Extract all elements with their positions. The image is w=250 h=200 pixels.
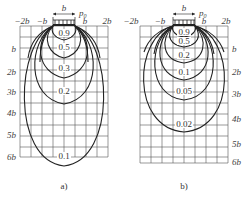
y-tick-label: 3b (6, 87, 17, 97)
y-tick-label: 5b (232, 139, 242, 149)
x-tick-label: −b (37, 16, 48, 26)
panel-b: 0.9 0.5 0.2 0.1 0.05 0.02 −2b −b b 2b b … (123, 3, 241, 191)
x-tick-label: −2b (14, 16, 30, 26)
y-tick-label: 6b (232, 157, 242, 167)
y-tick-label: 3b (231, 89, 242, 99)
x-tick-label: 2b (222, 16, 232, 26)
isobar-label: 0.5 (178, 36, 190, 46)
panel-a: 0.9 0.5 0.3 0.2 0.1 −2b −b b 2b b p0 b 2… (6, 3, 112, 191)
isobar-label: 0.05 (176, 86, 192, 96)
isobar-label: 0.3 (58, 63, 70, 73)
stress-isobar-figure: 0.9 0.5 0.3 0.2 0.1 −2b −b b 2b b p0 b 2… (0, 0, 250, 200)
isobar-label: 0.9 (58, 28, 70, 38)
panel-a-load (53, 13, 75, 27)
isobar-label: 0.2 (58, 86, 69, 96)
y-tick-label: 4b (232, 114, 242, 124)
y-tick-label: 5b (7, 130, 17, 140)
load-width-label: b (62, 3, 67, 13)
y-tick-label: b (232, 44, 237, 54)
y-tick-label: 2b (232, 67, 242, 77)
x-tick-label: 2b (103, 16, 113, 26)
y-tick-label: 6b (7, 152, 17, 162)
load-label: p0 (78, 8, 87, 19)
isobar-label: 0.02 (176, 119, 192, 129)
isobar-label: 0.2 (178, 50, 189, 60)
panel-b-load (173, 13, 195, 27)
panel-a-caption: a) (61, 181, 68, 191)
x-tick-label: −b (155, 16, 166, 26)
isobar-label: 0.5 (58, 42, 70, 52)
y-tick-label: b (12, 44, 17, 54)
x-tick-label: −2b (123, 16, 139, 26)
isobar-label: 0.1 (58, 151, 69, 161)
y-tick-label: 2b (7, 67, 17, 77)
isobar-label: 0.1 (178, 67, 189, 77)
load-label: p0 (198, 8, 207, 19)
panel-b-caption: b) (180, 181, 188, 191)
y-tick-label: 4b (7, 108, 17, 118)
load-width-label: b (182, 3, 187, 13)
